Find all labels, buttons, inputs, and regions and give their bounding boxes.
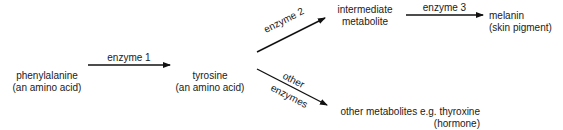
melanin-name: melanin bbox=[489, 10, 552, 22]
node-tyrosine: tyrosine (an amino acid) bbox=[165, 70, 255, 94]
melanin-note: (skin pigment) bbox=[489, 22, 552, 34]
intermediate-line1: intermediate bbox=[330, 4, 400, 16]
phenylalanine-name: phenylalanine bbox=[3, 70, 91, 82]
phenylalanine-note: (an amino acid) bbox=[3, 82, 91, 94]
node-melanin: melanin (skin pigment) bbox=[489, 10, 552, 34]
intermediate-line2: metabolite bbox=[330, 16, 400, 28]
tyrosine-name: tyrosine bbox=[165, 70, 255, 82]
other-metabolites-note: (hormone) bbox=[332, 118, 480, 130]
other-metabolites-name: other metabolites e.g. thyroxine bbox=[332, 106, 480, 118]
label-enzyme-1: enzyme 1 bbox=[88, 52, 170, 64]
tyrosine-note: (an amino acid) bbox=[165, 82, 255, 94]
node-other-metabolites: other metabolites e.g. thyroxine (hormon… bbox=[332, 106, 480, 130]
node-intermediate-metabolite: intermediate metabolite bbox=[330, 4, 400, 28]
node-phenylalanine: phenylalanine (an amino acid) bbox=[3, 70, 91, 94]
label-enzyme-3: enzyme 3 bbox=[406, 2, 483, 14]
